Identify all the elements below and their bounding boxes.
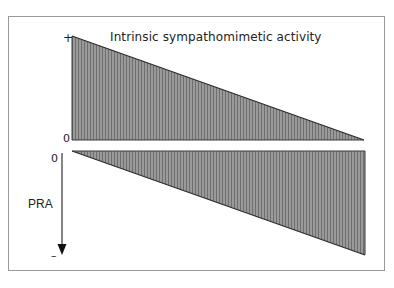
pra-arrow-icon [58, 153, 67, 255]
isa-zero-label: 0 [63, 133, 70, 144]
pra-zero-label: 0 [51, 153, 58, 164]
isa-triangle [72, 36, 364, 140]
pra-min-label: – [51, 250, 57, 261]
diagram-title: Intrinsic sympathomimetic activity [110, 31, 322, 43]
pra-axis-label: PRA [28, 198, 53, 210]
isa-max-label: + [63, 32, 73, 44]
pra-triangle [72, 151, 365, 255]
